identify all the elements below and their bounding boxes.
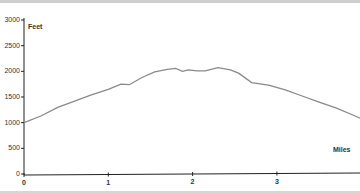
x-tick-label: 0	[22, 179, 26, 186]
y-tick-label: 3000	[0, 16, 20, 23]
y-tick-label: 1000	[0, 119, 20, 126]
y-tick-label: 2500	[0, 42, 20, 49]
elevation-chart	[0, 0, 360, 194]
y-tick-label: 500	[0, 144, 20, 151]
x-tick-label: 2	[191, 178, 195, 185]
x-tick-label: 3	[275, 178, 279, 185]
x-axis	[24, 173, 360, 175]
y-axis-label: Feet	[28, 23, 42, 30]
bottom-border	[0, 191, 360, 194]
x-tick-label: 1	[106, 179, 110, 186]
x-axis-label: Miles	[333, 146, 351, 153]
elevation-line	[24, 68, 360, 123]
y-tick-label: 0	[0, 170, 20, 177]
y-tick-label: 1500	[0, 93, 20, 100]
y-tick-label: 2000	[0, 67, 20, 74]
